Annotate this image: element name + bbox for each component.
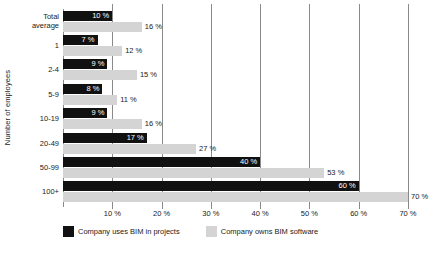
bar: 27 % [63,144,196,154]
bar: 7 % [63,35,98,45]
bar-value-label: 10 % [92,11,109,21]
category-label-line: 10-19 [0,114,59,123]
chart-legend: Company uses BIM in projectsCompany owns… [63,226,344,237]
x-tick-label: 70 % [399,209,416,218]
bar-value-label: 9 % [91,59,104,69]
bar: 70 % [63,192,408,202]
bar: 12 % [63,46,122,56]
category-row: 10-199 %16 % [63,107,408,131]
x-tick-label: 10 % [104,209,121,218]
category-label-line: 1 [0,41,59,50]
category-label-line: Total [0,12,59,21]
category-row: 5-98 %11 % [63,82,408,106]
bar: 9 % [63,59,107,69]
bar: 10 % [63,11,112,21]
legend-item: Company owns BIM software [206,226,319,237]
category-label-line: 100+ [0,187,59,196]
bar: 40 % [63,157,260,167]
bar-value-label: 7 % [82,35,95,45]
y-axis-title-label: Number of employees [4,70,13,145]
bar-value-label: 60 % [339,181,356,191]
category-label: Totalaverage [0,12,59,30]
category-row: 50-9940 %53 % [63,155,408,179]
bar: 16 % [63,119,142,129]
bar-value-label: 27 % [199,144,216,154]
category-label: 10-19 [0,114,59,123]
x-tick-label: 40 % [252,209,269,218]
bar: 9 % [63,108,107,118]
category-label: 2-4 [0,65,59,74]
category-label: 100+ [0,187,59,196]
x-tick-label: 30 % [202,209,219,218]
category-label: 50-99 [0,163,59,172]
legend-swatch [63,226,74,237]
bar-value-label: 16 % [145,22,162,32]
tick-top-70 [408,4,409,9]
category-label-line: 5-9 [0,90,59,99]
category-row: 2-49 %15 % [63,58,408,82]
bar: 53 % [63,168,324,178]
legend-swatch [206,226,217,237]
plot-area: Totalaverage10 %16 %17 %12 %2-49 %15 %5-… [63,9,408,204]
category-row: Totalaverage10 %16 % [63,9,408,33]
bar-value-label: 12 % [125,46,142,56]
category-row: 100+60 %70 % [63,180,408,204]
x-tick-label: 50 % [301,209,318,218]
bar-chart: Number of employees 10 %20 %30 %40 %50 %… [0,0,432,254]
legend-label: Company owns BIM software [221,227,319,236]
category-label-line: 2-4 [0,65,59,74]
category-label-line: average [0,21,59,30]
bar-value-label: 17 % [127,133,144,143]
bar-value-label: 70 % [411,192,428,202]
category-label: 5-9 [0,90,59,99]
category-label-line: 50-99 [0,163,59,172]
gridline-70 [408,9,409,204]
bar: 11 % [63,95,117,105]
bar-value-label: 9 % [91,108,104,118]
x-tick-label: 20 % [153,209,170,218]
category-row: 20-4917 %27 % [63,131,408,155]
legend-item: Company uses BIM in projects [63,226,180,237]
bar-value-label: 11 % [120,95,137,105]
bar: 60 % [63,181,359,191]
bar: 8 % [63,84,102,94]
bar: 16 % [63,22,142,32]
bar: 17 % [63,133,147,143]
bar: 15 % [63,70,137,80]
bar-value-label: 40 % [240,157,257,167]
legend-label: Company uses BIM in projects [78,227,180,236]
y-axis-title: Number of employees [0,0,16,215]
bar-value-label: 8 % [86,84,99,94]
x-tick-label: 60 % [350,209,367,218]
category-label-line: 20-49 [0,139,59,148]
bar-value-label: 53 % [327,168,344,178]
category-label: 20-49 [0,139,59,148]
category-label: 1 [0,41,59,50]
bar-value-label: 16 % [145,119,162,129]
category-row: 17 %12 % [63,33,408,57]
bar-value-label: 15 % [140,70,157,80]
